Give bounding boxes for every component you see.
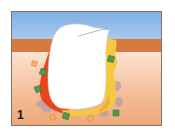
tooth-icon (48, 24, 109, 109)
panel-label: 1 (17, 108, 24, 122)
tooth-diagram (0, 0, 175, 134)
